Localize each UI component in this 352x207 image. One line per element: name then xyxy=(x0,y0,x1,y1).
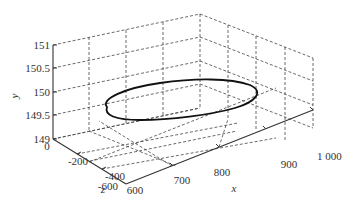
x-tick: 800 xyxy=(214,166,231,178)
z-tick-labels: 0 -200 -400 -600 xyxy=(44,140,125,192)
x-tick: 700 xyxy=(174,174,191,186)
3d-plot: 151 150.5 150 149.5 149 y 0 -200 -400 -6… xyxy=(0,0,352,207)
x-tick: 600 xyxy=(127,184,144,196)
x-tick: 900 xyxy=(281,158,298,170)
grid xyxy=(53,14,313,166)
ticks xyxy=(53,45,313,169)
trajectory-curve xyxy=(106,79,257,120)
y-tick: 151 xyxy=(34,39,51,51)
x-axis-label: x xyxy=(231,182,237,194)
y-axis-label: y xyxy=(8,93,20,99)
z-tick: 0 xyxy=(44,140,50,152)
y-tick: 150 xyxy=(34,86,51,98)
floor-grid xyxy=(53,87,313,184)
z-axis-label: z xyxy=(100,183,106,195)
axes xyxy=(53,45,313,184)
y-tick: 150.5 xyxy=(25,62,50,74)
y-tick: 149.5 xyxy=(25,109,50,121)
z-tick: -200 xyxy=(68,155,89,167)
y-tick-labels: 151 150.5 150 149.5 149 xyxy=(25,39,50,145)
x-tick: 1 000 xyxy=(317,150,342,162)
